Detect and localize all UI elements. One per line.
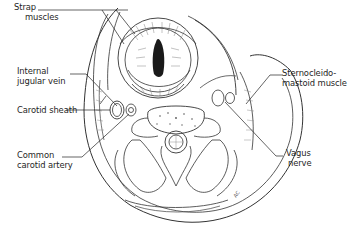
label-line: muscles — [14, 12, 59, 22]
label-line: Carotid sheath — [17, 105, 77, 115]
label-vagus-nerve: Vagus nerve — [286, 148, 312, 168]
label-line: nerve — [286, 158, 312, 168]
label-internal-jugular-vein: Internal jugular vein — [17, 66, 65, 86]
label-line: Strap — [14, 2, 59, 12]
artist-signature: AC — [232, 189, 241, 198]
vertebral-body — [148, 106, 205, 134]
laryngeal-lumen — [153, 39, 165, 77]
label-carotid-sheath: Carotid sheath — [17, 105, 77, 115]
vagus-nerve-leader — [225, 102, 283, 156]
label-line: Internal — [17, 66, 65, 76]
label-line: mastoid muscle — [282, 78, 347, 88]
anatomy-illustration: AC — [0, 0, 353, 242]
label-sternocleidomastoid: Sternocleido- mastoid muscle — [282, 68, 347, 88]
label-line: Vagus — [286, 148, 312, 158]
common-carotid-artery-shape — [126, 104, 136, 116]
label-strap-muscles: Strap muscles — [14, 2, 59, 22]
label-line: jugular vein — [17, 76, 65, 86]
neck-cross-section-diagram: AC Strap muscles Internal jugular vein C… — [0, 0, 353, 242]
label-line: Sternocleido- — [282, 68, 347, 78]
label-common-carotid-artery: Common carotid artery — [17, 150, 73, 170]
sternocleidomastoid-leader — [246, 75, 283, 104]
label-line: carotid artery — [17, 160, 73, 170]
label-line: Common — [17, 150, 73, 160]
